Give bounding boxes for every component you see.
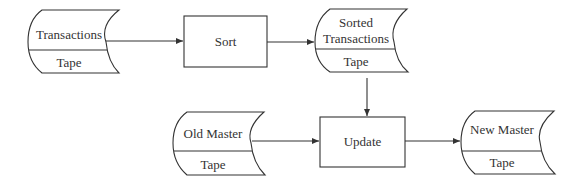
transactions-label: Transactions	[30, 27, 108, 42]
sorted-tape-sublabel: Tape	[316, 54, 396, 69]
old-master-tape-sublabel: Tape	[174, 157, 252, 172]
transactions-tape-sublabel: Tape	[30, 55, 108, 70]
sort-label: Sort	[184, 34, 267, 49]
old-master-label: Old Master	[174, 126, 252, 141]
new-master-tape-sublabel: Tape	[462, 155, 542, 170]
flowchart-canvas: Transactions Tape Sort Sorted Transactio…	[0, 0, 579, 184]
sorted-label-line1: Sorted	[316, 15, 396, 30]
new-master-label: New Master	[462, 122, 542, 137]
sorted-label-line2: Transactions	[316, 31, 396, 46]
update-label: Update	[320, 134, 405, 149]
